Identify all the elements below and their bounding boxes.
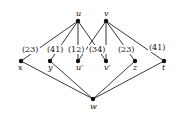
node-label-x: x bbox=[18, 63, 23, 72]
edge-u-y bbox=[50, 21, 78, 61]
node-label-w: w bbox=[90, 102, 97, 111]
node-label-v1: v′ bbox=[104, 63, 111, 72]
node-label-t: t bbox=[162, 63, 166, 72]
node-label-u1: u′ bbox=[76, 63, 83, 72]
graph-canvas: (23)(41)(12)(34)(23)(41)uvxyu′v′ztw bbox=[0, 0, 179, 119]
edge-weight-label: (41) bbox=[149, 43, 165, 52]
node-label-u: u bbox=[76, 9, 81, 18]
edge-v-z bbox=[106, 21, 135, 61]
node-label-z: z bbox=[132, 63, 138, 72]
edge-u-x bbox=[21, 21, 78, 61]
node-label-y: y bbox=[47, 63, 53, 72]
edge-weight-label: (34) bbox=[89, 45, 105, 54]
edge-weight-label: (23) bbox=[22, 45, 38, 54]
edge-weight-label: (41) bbox=[47, 45, 63, 54]
node-w bbox=[91, 97, 95, 101]
node-u bbox=[76, 19, 80, 23]
node-label-v: v bbox=[104, 9, 109, 18]
edge-v-t bbox=[106, 21, 164, 61]
edge-weight-label: (12) bbox=[68, 45, 84, 54]
edge-weight-label: (23) bbox=[118, 45, 134, 54]
graph-diagram: (23)(41)(12)(34)(23)(41)uvxyu′v′ztw bbox=[0, 0, 179, 119]
node-v bbox=[104, 19, 108, 23]
